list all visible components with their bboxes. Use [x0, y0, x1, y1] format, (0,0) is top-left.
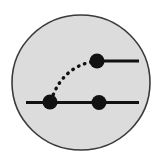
figure-container — [0, 0, 163, 165]
vertex-lower-left-dot — [43, 95, 58, 110]
shaded-circle-blob — [12, 15, 150, 150]
vertex-lower-right-dot — [92, 95, 107, 110]
feynman-diagram-svg — [0, 0, 163, 165]
vertex-upper-dot — [90, 54, 105, 69]
